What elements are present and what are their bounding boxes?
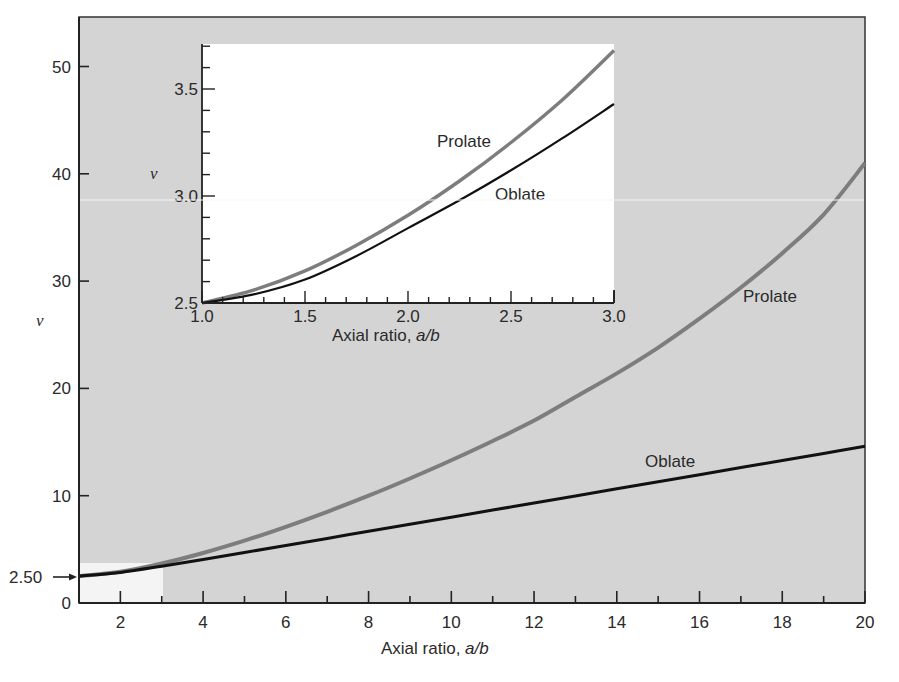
main-oblate-label: Oblate (645, 452, 695, 471)
inset-x-tick-label: 2.5 (499, 307, 523, 326)
chart-figure: 2468101214161820 01020304050 v Axial rat… (0, 0, 899, 682)
inset-oblate-label: Oblate (495, 185, 545, 204)
inset-x-axis-label: Axial ratio, a/b (332, 326, 440, 345)
inset-y-tick-label: 3.5 (174, 80, 198, 99)
main-x-tick-label: 16 (690, 613, 709, 632)
main-x-tick-label: 4 (198, 613, 207, 632)
main-x-tick-label: 14 (607, 613, 626, 632)
main-y-tick-label: 10 (52, 487, 71, 506)
main-prolate-label: Prolate (743, 287, 797, 306)
main-y-tick-label: 0 (62, 594, 71, 613)
inset-prolate-label: Prolate (437, 132, 491, 151)
inset-y-axis-label: v (150, 164, 158, 183)
main-x-tick-label: 20 (856, 613, 875, 632)
main-y-tick-label: 50 (52, 58, 71, 77)
main-x-tick-label: 18 (773, 613, 792, 632)
main-x-tick-label: 12 (525, 613, 544, 632)
inset-x-tick-label: 1.5 (293, 307, 317, 326)
main-x-tick-label: 6 (281, 613, 290, 632)
main-x-axis-label: Axial ratio, a/b (381, 639, 489, 658)
main-y-tick-label: 30 (52, 272, 71, 291)
main-y-axis-label: v (36, 311, 44, 330)
main-y-tick-label: 20 (52, 379, 71, 398)
inset-plot-background (202, 44, 614, 303)
inset-y-tick-label: 3.0 (174, 187, 198, 206)
inset-x-tick-label: 2.0 (396, 307, 420, 326)
arrow-right-icon (53, 574, 77, 581)
inset-x-tick-label: 3.0 (602, 307, 626, 326)
inset-y-tick-label: 2.5 (174, 294, 198, 313)
annotation-2-50-label: 2.50 (9, 568, 42, 587)
main-x-tick-label: 8 (364, 613, 373, 632)
main-y-tick-label: 40 (52, 165, 71, 184)
main-x-tick-label: 2 (116, 613, 125, 632)
main-x-tick-label: 10 (442, 613, 461, 632)
